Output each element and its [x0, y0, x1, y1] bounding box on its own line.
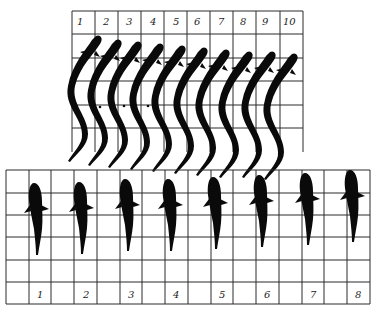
fish-frame-8: [340, 170, 365, 242]
bottom-label-4: 4: [172, 289, 179, 300]
top-label-1: 1: [77, 16, 83, 27]
fish-frame-5: [203, 177, 228, 249]
bottom-grid: [6, 170, 370, 304]
top-label-10: 10: [283, 16, 296, 27]
fish-frame-7: [295, 173, 320, 245]
top-label-2: 2: [102, 16, 109, 27]
top-label-3: 3: [126, 16, 132, 27]
bottom-label-1: 1: [37, 289, 43, 300]
top-label-8: 8: [240, 16, 246, 27]
bottom-label-5: 5: [219, 289, 225, 300]
eel-frame-1: [67, 35, 101, 162]
top-label-4: 4: [149, 16, 156, 27]
bottom-frame-labels: 1 2 3 4 5 6 7 8: [37, 289, 361, 300]
fish-frame-1: [24, 183, 49, 255]
bottom-label-2: 2: [82, 289, 89, 300]
top-label-6: 6: [194, 16, 201, 27]
top-label-7: 7: [218, 16, 225, 27]
top-label-5: 5: [173, 16, 179, 27]
eel-frame-10: [263, 53, 297, 180]
bottom-label-8: 8: [355, 289, 361, 300]
top-eel-sequence: [67, 35, 297, 180]
bottom-label-6: 6: [264, 289, 271, 300]
bottom-fish-sequence: [24, 170, 365, 255]
diagram-canvas: 1 2 3 4 5 6 7 8 9 10: [0, 0, 379, 309]
bottom-label-7: 7: [310, 289, 317, 300]
top-label-9: 9: [262, 16, 269, 27]
fish-frame-6: [249, 175, 274, 247]
bottom-label-3: 3: [128, 289, 134, 300]
